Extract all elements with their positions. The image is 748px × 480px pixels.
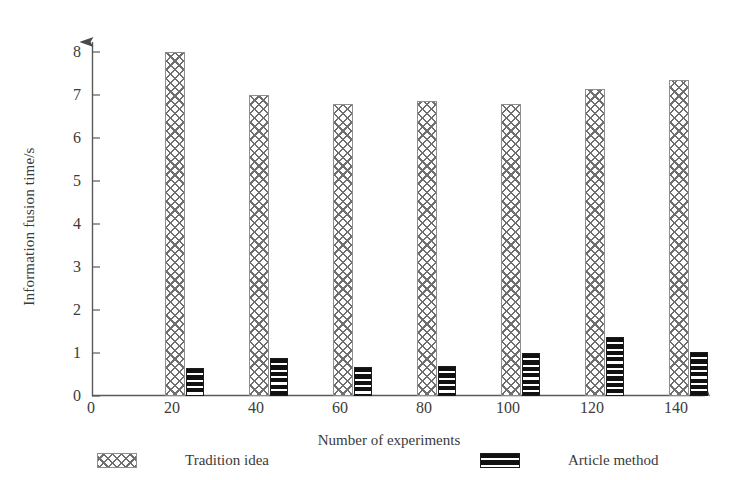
bar-tradition-idea [165,52,185,396]
bar-tradition-idea [249,95,269,396]
bar-tradition-idea [417,101,437,396]
bar-article-method [354,367,372,396]
legend-item-tradition-idea: Tradition idea [97,452,269,469]
legend-swatch-article-method [480,453,520,468]
y-tick-label: 5 [73,173,81,189]
bar-tradition-idea [585,89,605,396]
x-tick-label: 100 [496,400,520,416]
x-tick-label: 120 [580,400,604,416]
bar-tradition-idea [501,104,521,396]
bar-chart-figure: Information fusion time/s [0,0,748,480]
plot-area: 0 1 2 3 4 5 6 7 8 0 20 40 60 80 100 120 … [92,36,712,396]
x-tick-label: 20 [164,400,180,416]
legend-label-tradition-idea: Tradition idea [185,452,269,469]
y-tick-label: 2 [73,302,81,318]
x-axis-title: Number of experiments [318,432,460,449]
x-axis-title-wrap: Number of experiments [0,432,748,449]
bar-article-method [522,353,540,396]
bar-article-method [606,337,624,396]
bar-article-method [186,368,204,396]
y-tick-label: 8 [73,44,81,60]
bars-layer [92,36,712,396]
bar-article-method [690,352,708,396]
y-tick-label: 7 [73,87,81,103]
y-tick-label: 1 [73,345,81,361]
bar-article-method [270,358,288,396]
y-tick-label: 3 [73,259,81,275]
legend-label-article-method: Article method [568,452,658,469]
x-tick-label: 0 [87,400,95,416]
x-tick-label: 60 [332,400,348,416]
bar-tradition-idea [669,80,689,396]
y-axis-title: Information fusion time/s [21,112,38,342]
x-tick-label: 140 [664,400,688,416]
legend-swatch-tradition-idea [97,453,137,468]
y-tick-label: 4 [73,216,81,232]
chart-legend: Tradition idea Article method [0,452,748,480]
x-tick-label: 40 [248,400,264,416]
x-tick-label: 80 [416,400,432,416]
y-tick-label: 0 [73,388,81,404]
legend-item-article-method: Article method [480,452,658,469]
y-tick-label: 6 [73,130,81,146]
bar-tradition-idea [333,104,353,396]
bar-article-method [438,366,456,396]
